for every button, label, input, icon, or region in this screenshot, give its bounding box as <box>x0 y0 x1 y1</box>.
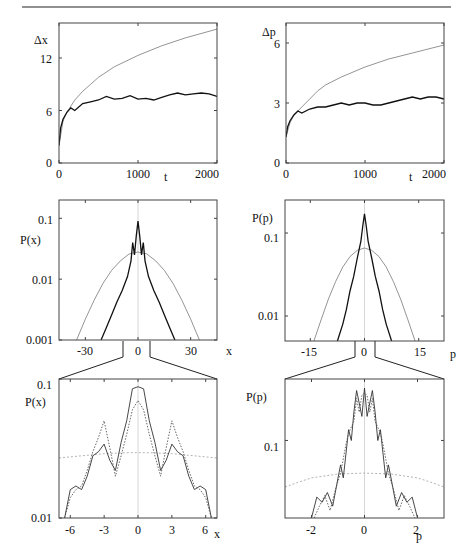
ytick-0: 0 <box>46 156 52 170</box>
xtick-0: 0 <box>283 167 289 181</box>
xtick-15: 15 <box>414 345 426 359</box>
series-line <box>286 45 444 137</box>
zoom-connector-right <box>375 341 444 379</box>
ytick-0.01: 0.01 <box>31 511 52 525</box>
xlabel-p: p <box>450 347 456 361</box>
ytick-0.1: 0.1 <box>38 213 53 227</box>
ytick-0.1: 0.1 <box>264 440 279 454</box>
series-line <box>59 93 217 146</box>
zoom-connector-left <box>150 341 217 379</box>
xtick--2: -2 <box>306 523 316 537</box>
xlabel-t: t <box>164 170 168 184</box>
plot-frame <box>59 23 217 163</box>
xtick-0: 0 <box>361 523 367 537</box>
ytick-6: 6 <box>46 105 52 119</box>
xtick-30: 30 <box>185 344 197 358</box>
ytick-0: 0 <box>274 156 280 170</box>
series-line <box>286 97 444 137</box>
xtick--15: -15 <box>301 345 317 359</box>
plot-frame <box>286 23 444 163</box>
xtick-0: 0 <box>135 344 141 358</box>
ytick-0.01: 0.01 <box>258 309 279 323</box>
series-line <box>59 29 217 145</box>
ytick-0.1: 0.1 <box>37 378 52 392</box>
ytick-0.001: 0.001 <box>26 333 53 347</box>
ytick-0.01: 0.01 <box>32 273 53 287</box>
xtick-1000: 1000 <box>353 167 377 181</box>
panel-pp-zoom: P(p) p 0.1 -2 0 2 <box>246 379 444 543</box>
xtick-2000: 2000 <box>422 167 446 181</box>
xlabel-t: t <box>409 170 413 184</box>
xtick--30: -30 <box>77 344 93 358</box>
ylabel-delta-x: Δx <box>34 33 48 47</box>
xlabel-x: x <box>226 344 232 358</box>
xlabel-x: x <box>214 527 220 541</box>
ytick-6: 6 <box>274 37 280 51</box>
figure: Δx t 0 6 12 0 1000 2000 Δp t 0 3 6 0 100… <box>0 0 471 558</box>
panel-delta-p: Δp t 0 3 6 0 1000 2000 <box>262 23 446 184</box>
xtick-2: 2 <box>413 523 419 537</box>
panel-pp-log: P(p) p 0.01 0.1 -15 0 15 <box>252 200 456 361</box>
xtick-0: 0 <box>135 523 141 537</box>
zoom-connector-right <box>285 341 355 379</box>
panel-px-log: P(x) x 0.001 0.01 0.1 -30 0 30 <box>20 200 232 358</box>
ytick-12: 12 <box>40 52 52 66</box>
xtick-1000: 1000 <box>126 167 150 181</box>
panel-delta-x: Δx t 0 6 12 0 1000 2000 <box>34 23 219 184</box>
panel-px-zoom: P(x) x 0.01 0.1 -6 -3 0 3 6 <box>25 378 220 541</box>
xtick--6: -6 <box>65 523 75 537</box>
xtick-3: 3 <box>169 523 175 537</box>
ylabel-px: P(x) <box>25 395 46 409</box>
ylabel-pp: P(p) <box>252 211 273 225</box>
ytick-3: 3 <box>274 97 280 111</box>
xtick-0: 0 <box>361 345 367 359</box>
ytick-0.1: 0.1 <box>264 231 279 245</box>
xtick--3: -3 <box>99 523 109 537</box>
ylabel-pp: P(p) <box>246 390 267 404</box>
xtick-6: 6 <box>202 523 208 537</box>
xtick-0: 0 <box>56 167 62 181</box>
ylabel-px: P(x) <box>20 233 41 247</box>
xtick-2000: 2000 <box>195 167 219 181</box>
